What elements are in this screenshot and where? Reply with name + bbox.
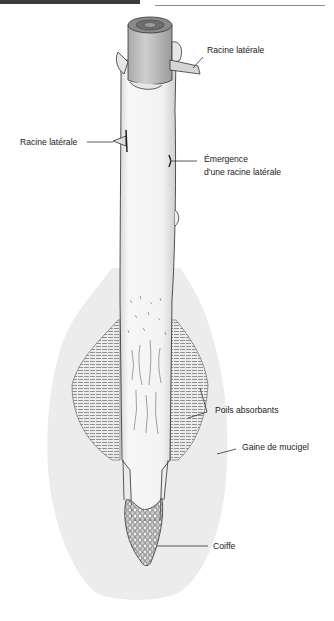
root-illustration xyxy=(0,0,334,621)
label-emergence-line1: Émergence xyxy=(204,153,248,166)
lateral-root-left-shape xyxy=(113,136,126,146)
label-emergence-line2: d'une racine latérale xyxy=(204,166,281,179)
label-root-cap: Coiffe xyxy=(213,540,235,553)
label-mucigel-sheath: Gaine de mucigel xyxy=(242,441,309,454)
label-lateral-root-top: Racine latérale xyxy=(207,44,264,57)
label-root-hairs: Poils absorbants xyxy=(215,404,279,417)
label-lateral-root-left: Racine latérale xyxy=(20,136,77,149)
root-body xyxy=(120,60,176,520)
cut-section-tube xyxy=(128,25,172,85)
root-bulge xyxy=(175,210,179,226)
